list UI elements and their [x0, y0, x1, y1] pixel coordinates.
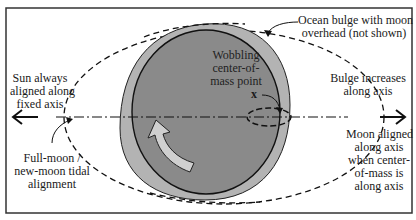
center-of-mass-mark: x [248, 88, 260, 101]
bulge-increases-label: Bulge increases along axis [326, 72, 410, 98]
tidal-diagram: Sun always aligned along fixed axis Ocea… [0, 0, 416, 220]
full-moon-label: Full-moon / new-moon tidal alignment [12, 152, 92, 191]
moon-aligned-label: Moon aligned along axis when center- of-… [346, 128, 412, 193]
sun-label: Sun always aligned along fixed axis [10, 72, 70, 111]
ocean-bulge-label: Ocean bulge with moon overhead (not show… [298, 14, 410, 40]
wobbling-label: Wobbling center-of- mass point [206, 49, 266, 88]
